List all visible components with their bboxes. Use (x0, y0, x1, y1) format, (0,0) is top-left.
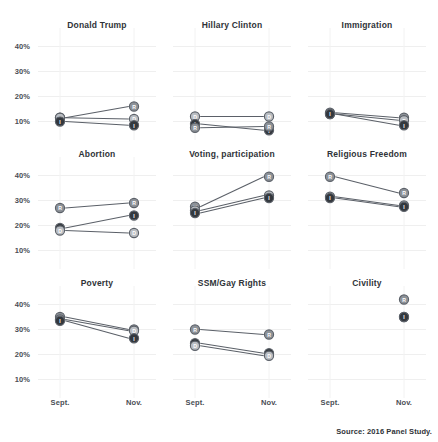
svg-text:R: R (267, 124, 271, 130)
data-point-R: R (399, 295, 408, 304)
data-point-R: R (190, 325, 199, 334)
data-point-R: R (55, 203, 64, 212)
panel-title: Religious Freedom (308, 149, 426, 159)
data-point-I: I (325, 193, 334, 202)
svg-text:R: R (267, 174, 271, 180)
y-tick-label: 30% (4, 67, 30, 76)
y-tick-label: 10% (4, 117, 30, 126)
panel-title: Donald Trump (38, 20, 156, 30)
plot-area: RRDDII (38, 292, 156, 392)
data-point-R: R (264, 122, 273, 131)
source-note: Source: 2016 Panel Study. (336, 427, 432, 436)
data-point-R: R (129, 102, 138, 111)
panel-voting-participation: Voting, participationRRDDII (173, 149, 291, 263)
data-point-R: R (325, 172, 334, 181)
data-point-I: I (129, 334, 138, 343)
y-tick-label: 10% (4, 246, 30, 255)
plot-area: RRIIDD (38, 163, 156, 263)
data-point-I: I (129, 211, 138, 220)
plot-area: RRDDII (173, 163, 291, 263)
panel-title: Civility (308, 278, 426, 288)
data-point-R: R (129, 198, 138, 207)
data-point-D: D (129, 228, 138, 237)
panel-title: Hillary Clinton (173, 20, 291, 30)
series-line-R (200, 330, 264, 335)
x-tick-label: Nov. (117, 398, 151, 407)
panel-hillary-clinton: Hillary ClintonDDIIRR (173, 20, 291, 134)
y-tick-label: 20% (4, 92, 30, 101)
plot-area: RRDDII (308, 34, 426, 134)
x-tick-label: Nov. (387, 398, 421, 407)
series-line-D (335, 197, 399, 206)
panel-title: Voting, participation (173, 149, 291, 159)
data-point-I: I (55, 316, 64, 325)
svg-text:R: R (132, 200, 136, 206)
panel-donald-trump: Donald TrumpRRDDII (38, 20, 156, 134)
plot-area: RRDDII (38, 34, 156, 134)
series-line-I (335, 198, 399, 207)
series-line-R (200, 177, 264, 207)
data-point-D: D (264, 112, 273, 121)
data-point-R: R (190, 123, 199, 132)
series-line-D (65, 231, 129, 234)
data-point-I: I (399, 312, 408, 321)
series-line-I (200, 343, 264, 353)
data-point-I: I (55, 117, 64, 126)
svg-text:D: D (267, 114, 271, 120)
panel-abortion: AbortionRRIIDD (38, 149, 156, 263)
svg-text:R: R (193, 125, 197, 131)
panel-poverty: PovertyRRDDII (38, 278, 156, 392)
series-line-R (65, 203, 129, 208)
svg-text:R: R (132, 104, 136, 110)
y-tick-label: 30% (4, 196, 30, 205)
svg-text:R: R (193, 327, 197, 333)
plot-area: RDI (308, 292, 426, 392)
svg-text:D: D (132, 230, 136, 236)
series-line-I (65, 216, 129, 229)
svg-text:D: D (193, 343, 197, 349)
series-line-R (200, 127, 264, 128)
panel-ssm-gay-rights: SSM/Gay RightsRRIIDD (173, 278, 291, 392)
svg-text:R: R (402, 297, 406, 303)
data-point-D: D (55, 226, 64, 235)
panel-title: SSM/Gay Rights (173, 278, 291, 288)
y-tick-label: 20% (4, 221, 30, 230)
x-tick-label: Sept. (43, 398, 77, 407)
svg-text:R: R (58, 205, 62, 211)
plot-area: RRIIDD (173, 292, 291, 392)
data-point-I: I (325, 109, 334, 118)
chart-figure: Donald TrumpRRDDIIHillary ClintonDDIIRRI… (0, 0, 438, 442)
data-point-R: R (399, 188, 408, 197)
panel-title: Poverty (38, 278, 156, 288)
data-point-I: I (264, 193, 273, 202)
y-tick-label: 20% (4, 350, 30, 359)
y-tick-label: 40% (4, 300, 30, 309)
y-tick-label: 10% (4, 375, 30, 384)
series-line-I (65, 122, 129, 126)
svg-text:D: D (267, 353, 271, 359)
data-point-I: I (190, 208, 199, 217)
panel-title: Abortion (38, 149, 156, 159)
data-point-D: D (190, 341, 199, 350)
series-line-D (200, 196, 264, 211)
panel-civility: CivilityRDI (308, 278, 426, 392)
x-tick-label: Sept. (178, 398, 212, 407)
y-tick-label: 30% (4, 325, 30, 334)
panel-religious-freedom: Religious FreedomRRDDII (308, 149, 426, 263)
y-tick-label: 40% (4, 171, 30, 180)
data-point-R: R (264, 172, 273, 181)
data-point-D: D (264, 351, 273, 360)
data-point-R: R (264, 330, 273, 339)
series-line-R (335, 177, 399, 193)
plot-area: RRDDII (308, 163, 426, 263)
data-point-I: I (399, 202, 408, 211)
y-tick-label: 40% (4, 42, 30, 51)
x-tick-label: Sept. (313, 398, 347, 407)
svg-text:D: D (58, 228, 62, 234)
panel-title: Immigration (308, 20, 426, 30)
svg-text:R: R (402, 190, 406, 196)
series-line-D (65, 118, 129, 119)
data-point-I: I (399, 121, 408, 130)
svg-text:R: R (267, 332, 271, 338)
panel-immigration: ImmigrationRRDDII (308, 20, 426, 134)
